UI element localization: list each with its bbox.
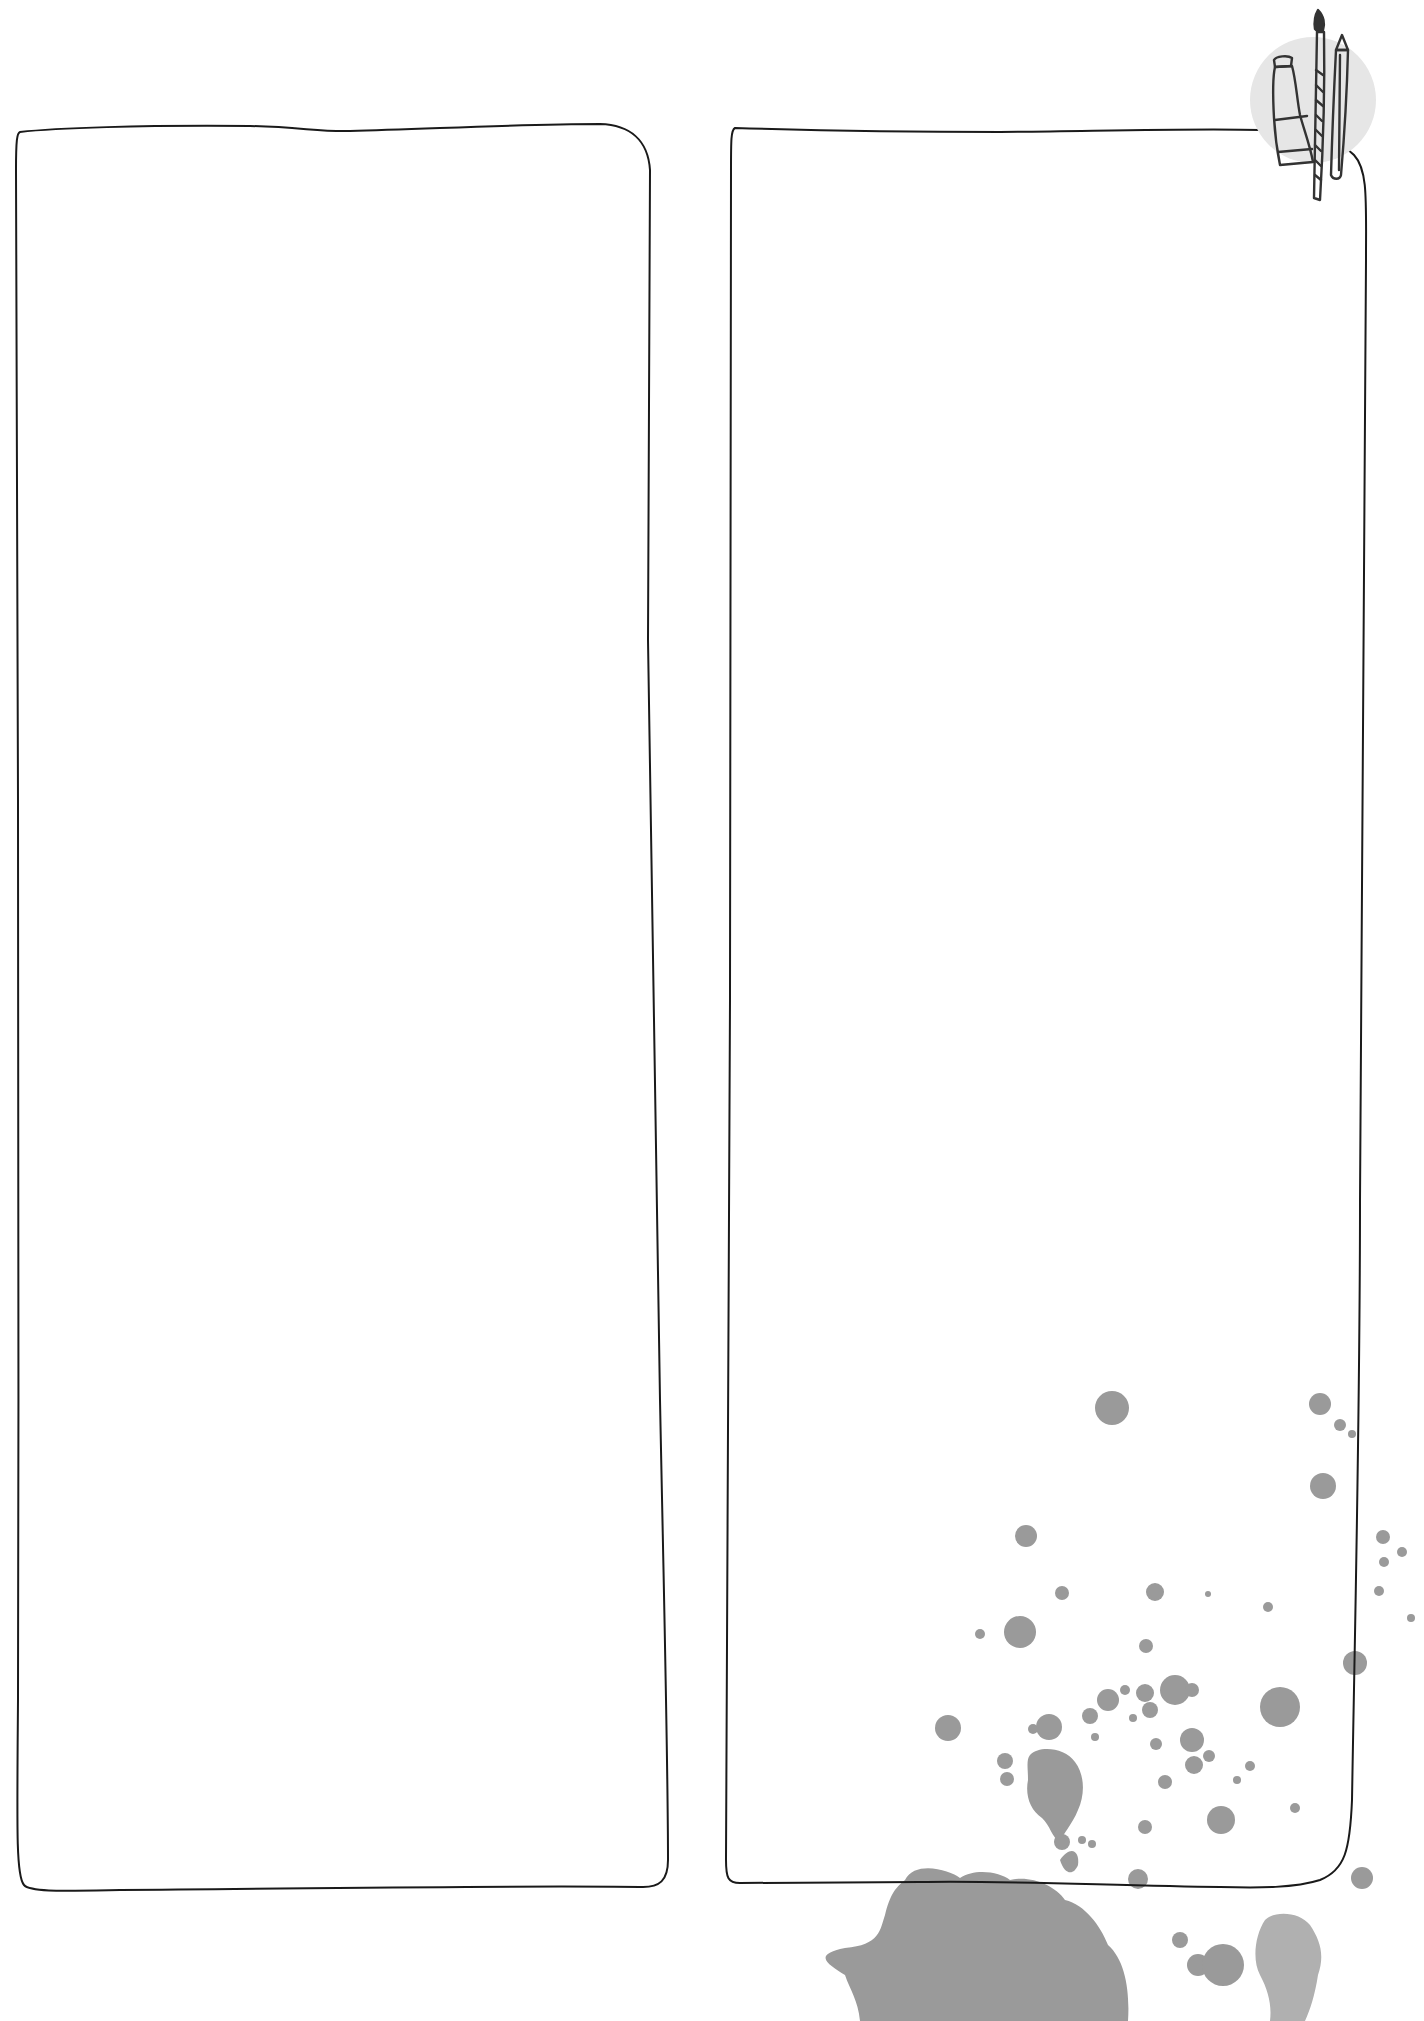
right-frame (726, 128, 1366, 1887)
left-frame (16, 124, 668, 1891)
art-supplies-icon (1230, 0, 1424, 220)
page-canvas (0, 0, 1424, 2021)
icon-background-circle (1250, 37, 1376, 163)
ink-splatter (826, 1391, 1415, 2021)
